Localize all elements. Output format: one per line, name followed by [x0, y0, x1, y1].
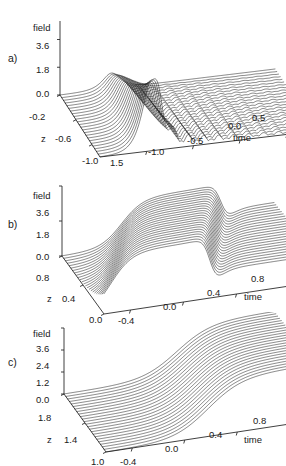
panel-a-field-tick-2: 0.0: [36, 88, 49, 99]
panel-c-time-tick-0: -0.4: [120, 456, 136, 466]
panel-a-field-axis-title: field: [33, 22, 50, 33]
panel-a-time-tick-0: 1.5: [110, 157, 123, 168]
panel-a-time-tick-1: -1.0: [148, 146, 164, 157]
panel-b-field-tick-2: 0.0: [36, 251, 49, 262]
panel-c-field-tick-2: 1.2: [36, 377, 49, 388]
panel-c-time-axis-title: time: [244, 434, 262, 445]
panel-a-time-tick-3: 0.0: [228, 120, 241, 131]
panel-b-time-tick-2: 0.4: [207, 287, 220, 298]
panel-b-z-axis-title: z: [47, 293, 52, 304]
panel-a-time-tick-4: 0.5: [252, 112, 265, 123]
panel-a: a) field 3.6 1.8 0.0 z -0.2 -0.6 -1.0 ti…: [0, 0, 286, 172]
panel-a-z-tick-1: -0.6: [55, 133, 71, 144]
panel-b-field-tick-0: 3.6: [36, 207, 49, 218]
panel-a-z-tick-0: -0.2: [29, 111, 45, 122]
panel-b-time-tick-3: 0.8: [251, 273, 264, 284]
panel-a-z-axis-title: z: [41, 133, 46, 144]
panel-c-z-tick-2: 1.0: [91, 456, 104, 466]
panel-a-time-axis-title: time: [233, 132, 251, 143]
panel-b-time-tick-1: 0.0: [163, 301, 176, 312]
panel-a-time-tick-2: -0.5: [187, 135, 203, 146]
panel-c-field-tick-1: 2.4: [36, 360, 49, 371]
panel-c-field-tick-0: 3.6: [36, 343, 49, 354]
panel-c-field-tick-3: 0.0: [36, 394, 49, 405]
panel-b-field-axis-title: field: [33, 190, 50, 201]
panel-b-time-axis-title: time: [244, 291, 262, 302]
panel-c-field-axis-title: field: [33, 328, 50, 339]
panel-b: b) field 3.6 1.8 0.0 z 0.8 0.4 0.0 time …: [0, 168, 286, 318]
panel-a-field-tick-0: 3.6: [36, 40, 49, 51]
panel-b-z-tick-1: 0.4: [62, 293, 75, 304]
panel-c-z-tick-1: 1.4: [64, 434, 77, 445]
panel-a-z-tick-2: -1.0: [82, 155, 98, 166]
panel-c-z-axis-title: z: [47, 434, 52, 445]
panel-c: c) field 3.6 2.4 1.2 0.0 z 1.8 1.4 1.0 t…: [0, 312, 286, 466]
panel-c-time-tick-1: 0.0: [165, 443, 178, 454]
figure-root: a) field 3.6 1.8 0.0 z -0.2 -0.6 -1.0 ti…: [0, 0, 286, 466]
panel-c-time-tick-3: 0.8: [253, 415, 266, 426]
panel-c-z-tick-0: 1.8: [38, 412, 51, 423]
panel-c-time-tick-2: 0.4: [209, 429, 222, 440]
panel-b-z-tick-0: 0.8: [36, 272, 49, 283]
panel-a-field-tick-1: 1.8: [36, 64, 49, 75]
panel-b-field-tick-1: 1.8: [36, 229, 49, 240]
